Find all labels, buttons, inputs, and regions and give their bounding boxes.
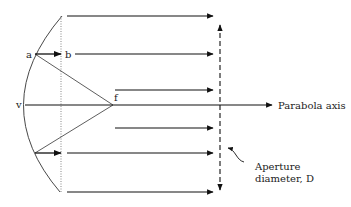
parabola-curve [23, 16, 62, 192]
aperture-callout-curve [228, 148, 244, 162]
label-parabola-axis: Parabola axis [278, 100, 346, 111]
label-vertex: v [15, 99, 22, 110]
focal-ray-upper [35, 54, 113, 105]
label-aperture-line2: diameter, D [255, 173, 314, 184]
label-point-b: b [65, 49, 71, 60]
parabola-diagram: a b v f Parabola axis Aperture diameter,… [0, 0, 351, 207]
label-aperture-line1: Aperture [254, 161, 301, 172]
label-point-a: a [26, 49, 32, 60]
focal-ray-lower [35, 105, 113, 153]
label-focus: f [114, 92, 119, 103]
